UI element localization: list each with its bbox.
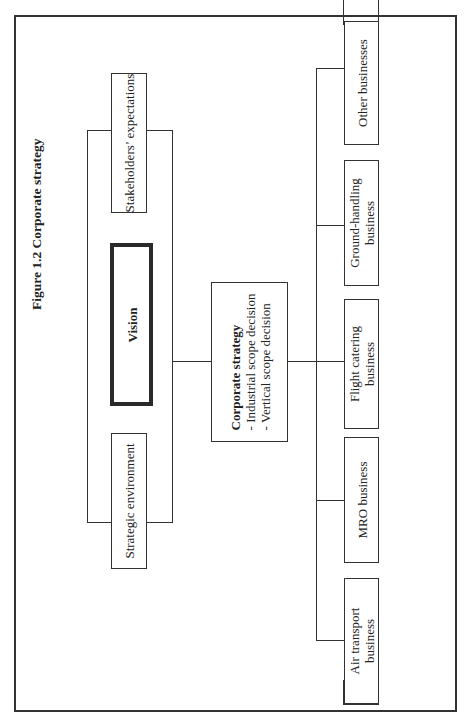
flight-catering-label: Flight catering business	[347, 326, 377, 402]
business-trunk-line	[316, 68, 317, 640]
air-transport-label: Air transport business	[347, 608, 377, 675]
stakeholders-expectations-label: Stakeholders’ expectations	[122, 74, 137, 213]
air-transport-line1: Air transport	[347, 608, 362, 675]
connector-bracket-to-corporate	[172, 361, 212, 362]
branch-mro	[316, 500, 344, 501]
stakeholders-expectations-box: Stakeholders’ expectations	[111, 73, 147, 213]
ground-handling-line2: business	[362, 178, 377, 268]
branch-ground-handling	[316, 225, 344, 226]
air-transport-line2: business	[362, 608, 377, 675]
corporate-strategy-item: - Industrial scope decision	[242, 294, 257, 431]
strategic-environment-label: Strategic environment	[122, 443, 137, 558]
corporate-strategy-heading: Corporate strategy	[227, 294, 242, 431]
other-businesses-box: Other businesses	[344, 21, 379, 145]
air-transport-box: Air transport business	[344, 578, 379, 704]
bracket-right-line	[172, 130, 173, 522]
corporate-strategy-item: - Vertical scope decision	[257, 294, 272, 431]
flight-catering-line1: Flight catering	[347, 326, 362, 402]
other-businesses-label: Other businesses	[354, 39, 369, 127]
branch-other	[316, 68, 344, 69]
mro-business-label: MRO business	[354, 462, 369, 539]
branch-flight-catering	[316, 361, 344, 362]
ground-handling-line1: Ground-handling	[347, 178, 362, 268]
connector-corporate-to-trunk	[287, 361, 317, 362]
ground-handling-label: Ground-handling business	[347, 178, 377, 268]
flight-catering-line2: business	[362, 326, 377, 402]
figure-title: Figure 1.2 Corporate strategy	[29, 139, 45, 310]
vision-box: Vision	[110, 243, 153, 406]
bracket-left-line	[87, 130, 88, 522]
ground-handling-box: Ground-handling business	[344, 160, 379, 286]
flight-catering-box: Flight catering business	[344, 299, 379, 429]
corporate-strategy-box: Corporate strategy - Industrial scope de…	[211, 282, 288, 442]
corporate-strategy-content: Corporate strategy - Industrial scope de…	[227, 294, 272, 431]
mro-business-box: MRO business	[344, 437, 379, 563]
branch-air-transport	[316, 640, 344, 641]
vision-label: Vision	[124, 307, 139, 342]
strategic-environment-box: Strategic environment	[111, 433, 147, 569]
